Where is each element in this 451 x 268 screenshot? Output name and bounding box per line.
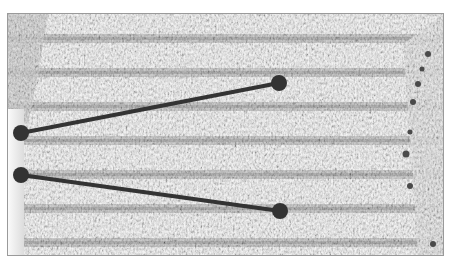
upper-left-dot xyxy=(13,125,29,141)
lower-pointer-line xyxy=(21,175,280,211)
upper-pointer-line xyxy=(21,83,279,133)
lower-right-dot xyxy=(272,203,288,219)
annotation-overlay xyxy=(0,0,451,268)
lower-left-dot xyxy=(13,167,29,183)
upper-right-dot xyxy=(271,75,287,91)
pointer-lines xyxy=(21,83,280,211)
